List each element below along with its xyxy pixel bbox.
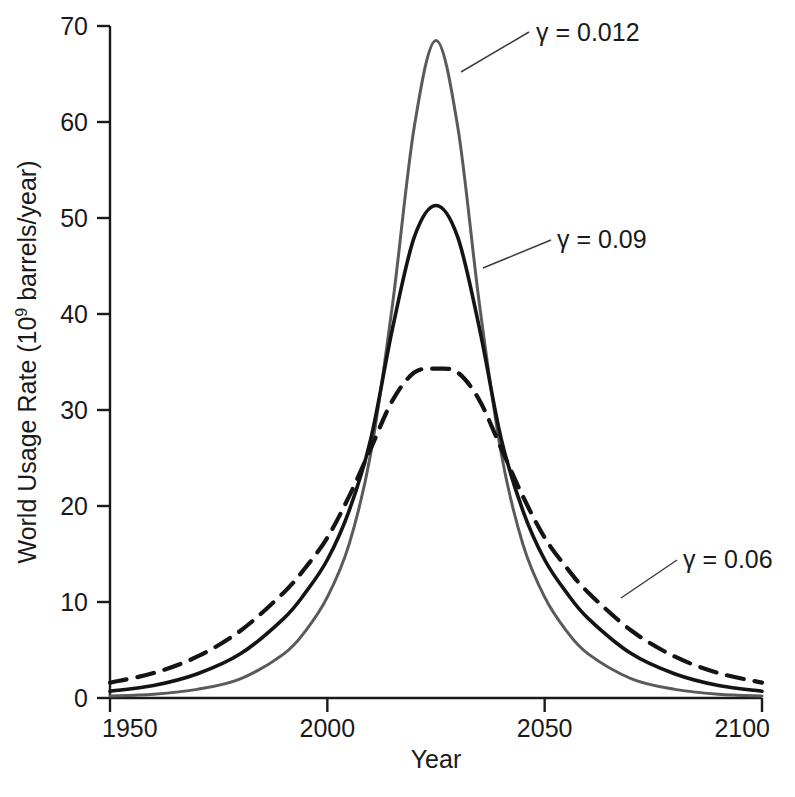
x-tick-label-2050: 2050 <box>517 714 573 742</box>
curve-annotations: γ = 0.012γ = 0.09γ = 0.06 <box>461 18 773 598</box>
x-tick-label-1950: 1950 <box>102 714 158 742</box>
leader-line-gamma-0.012 <box>461 32 529 72</box>
curve-gamma-0.06 <box>110 369 762 683</box>
chart-canvas: 010203040506070 1950200020502100 γ = 0.0… <box>0 0 795 797</box>
y-tick-label-60: 60 <box>60 108 88 136</box>
leader-line-gamma-0.06 <box>621 560 677 598</box>
y-tick-labels: 010203040506070 <box>60 12 88 712</box>
y-axis-title-prefix: World Usage Rate (10 <box>13 317 41 564</box>
x-axis-title: Year <box>411 745 462 773</box>
y-tick-marks <box>97 26 110 698</box>
y-tick-label-30: 30 <box>60 396 88 424</box>
y-tick-label-40: 40 <box>60 300 88 328</box>
y-axis-title-exponent: 9 <box>13 308 30 317</box>
y-tick-label-10: 10 <box>60 588 88 616</box>
x-tick-label-2000: 2000 <box>300 714 356 742</box>
y-axis-title-suffix: barrels/year) <box>13 160 41 307</box>
svg-text:World Usage Rate (109 barrels/: World Usage Rate (109 barrels/year) <box>13 160 41 563</box>
y-tick-label-20: 20 <box>60 492 88 520</box>
axes-group <box>97 26 762 712</box>
chart-figure: 010203040506070 1950200020502100 γ = 0.0… <box>0 0 795 797</box>
y-tick-label-0: 0 <box>74 684 88 712</box>
curve-gamma-0.09 <box>110 206 762 692</box>
y-axis-title: World Usage Rate (109 barrels/year) <box>13 160 41 563</box>
annotation-label-gamma-0.06: γ = 0.06 <box>683 545 773 573</box>
x-tick-labels: 1950200020502100 <box>102 714 770 742</box>
y-tick-label-70: 70 <box>60 12 88 40</box>
y-tick-label-50: 50 <box>60 204 88 232</box>
x-tick-label-2100: 2100 <box>714 714 770 742</box>
annotation-label-gamma-0.09: γ = 0.09 <box>557 225 647 253</box>
data-series-group <box>110 40 762 696</box>
x-tick-marks <box>110 698 762 712</box>
annotation-label-gamma-0.012: γ = 0.012 <box>536 18 640 46</box>
leader-line-gamma-0.09 <box>483 240 551 268</box>
